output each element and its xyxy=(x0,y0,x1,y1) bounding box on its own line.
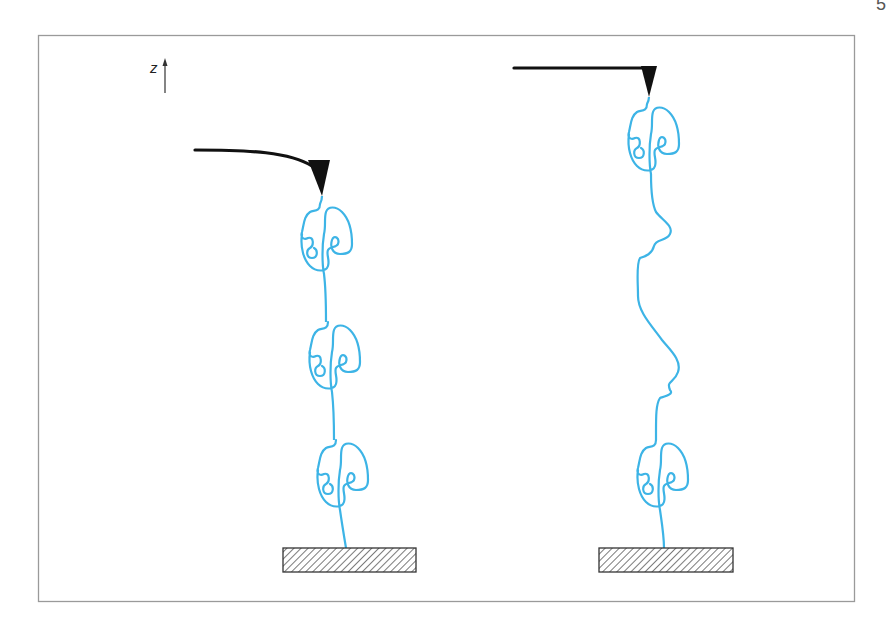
protein-chain-left xyxy=(301,196,368,548)
protein-chain-right xyxy=(628,97,688,548)
afm-tip-icon xyxy=(641,66,657,97)
folded-domain-icon xyxy=(628,104,679,174)
folded-domain-icon xyxy=(317,440,368,510)
afm-unfolding-diagram: z xyxy=(0,0,888,641)
afm-tip-icon xyxy=(308,160,330,196)
right-panel xyxy=(514,66,733,572)
z-axis-indicator: z xyxy=(149,58,168,93)
folded-domain-icon xyxy=(301,204,352,274)
substrate-right xyxy=(599,548,733,572)
cantilever-deflected xyxy=(195,150,312,166)
unfolded-chain-segment xyxy=(638,174,679,432)
z-axis-label: z xyxy=(149,59,158,76)
substrate-left xyxy=(283,548,416,572)
figure-frame xyxy=(39,36,855,602)
folded-domain-icon xyxy=(309,322,360,392)
folded-domain-icon xyxy=(637,440,688,510)
left-panel xyxy=(195,150,416,572)
